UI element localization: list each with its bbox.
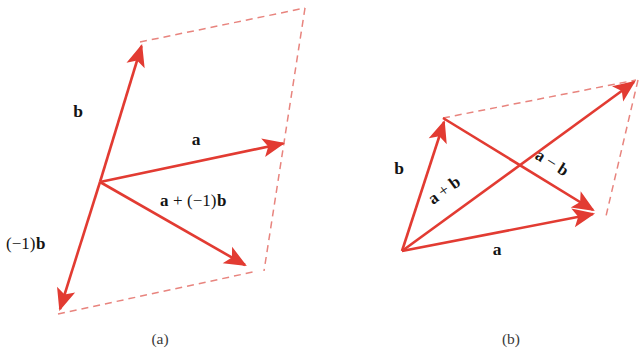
guide-top-right-to-bottom-right: [264, 8, 305, 271]
label-b-panel-a: b: [73, 101, 83, 121]
vector-diagram-svg: b a (−1)b a+(−1)b (a): [0, 0, 644, 359]
label-a-panel-b: a: [493, 239, 502, 259]
caption-panel-a: (a): [151, 330, 168, 348]
label-sum-first-a: a: [160, 191, 169, 210]
guide-bottom-left-to-bottom-right: [58, 272, 253, 314]
panel-a-vectors: [60, 46, 283, 309]
panel-a-guides: [58, 8, 305, 314]
label-sum-vector-b: b: [217, 191, 226, 210]
label-neg-b-panel-a: (−1)b: [6, 234, 45, 253]
caption-panel-b: (b): [502, 330, 520, 348]
vector-b: [100, 46, 142, 182]
vector-neg-b: [60, 182, 100, 309]
svg-text:a+b: a+b: [424, 172, 464, 208]
label-b-panel-b: b: [394, 158, 404, 178]
guide-b-tip-to-sum-tip: [443, 80, 636, 118]
vector-a-plus-b: [402, 82, 634, 251]
label-sum-operator-plus: +: [173, 191, 183, 210]
panel-b: b a a+b a−b (b): [394, 80, 638, 348]
panel-a: b a (−1)b a+(−1)b (a): [6, 8, 305, 348]
label-a-panel-a: a: [192, 129, 201, 149]
label-neg-b-scalar: (−1): [6, 234, 35, 253]
label-a-plus-neg-b-panel-a: a+(−1)b: [160, 191, 226, 210]
panel-b-vectors: [402, 82, 634, 251]
figure-canvas: b a (−1)b a+(−1)b (a): [0, 0, 644, 359]
label-neg-b-vector: b: [36, 234, 45, 253]
svg-text:a+(−1)b: a+(−1)b: [160, 191, 226, 210]
svg-text:(−1)b: (−1)b: [6, 234, 45, 253]
vector-a: [100, 144, 283, 183]
guide-b-to-top-right: [140, 8, 305, 42]
label-sum-scalar: (−1): [187, 191, 216, 210]
label-a-plus-b-panel-b: a+b: [424, 172, 464, 208]
